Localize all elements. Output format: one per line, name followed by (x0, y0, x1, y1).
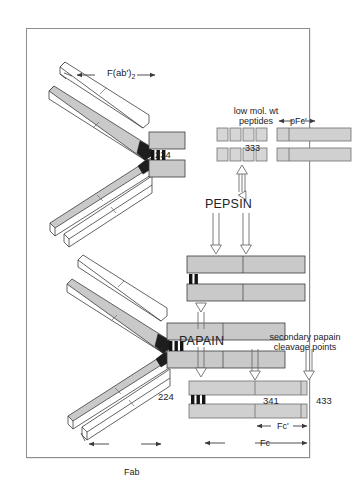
figure-canvas: F(ab')2 234 224 low mol. wt peptides pFc… (27, 29, 309, 457)
measure-fab (81, 433, 161, 444)
label-residue-341: 341 (263, 396, 279, 407)
label-secondary-line1: secondary papain (255, 332, 355, 342)
figure-frame: F(ab')2 234 224 low mol. wt peptides pFc… (26, 28, 310, 458)
label-low-mol-wt-peptides: low mol. wt peptides (219, 106, 293, 126)
label-fc: Fc (260, 438, 270, 448)
label-residue-234: 234 (155, 150, 171, 161)
label-fc-prime: Fc' (277, 421, 289, 431)
label-low-mol-wt-line1: low mol. wt (219, 106, 293, 116)
fc-product-bars (189, 381, 307, 418)
pepsin-product-bars (187, 256, 305, 301)
peptide-row-1 (217, 128, 267, 141)
heavy-chain-upper-right (50, 158, 151, 236)
pfc-bars (277, 128, 351, 161)
label-papain: PAPAIN (179, 334, 224, 348)
heavy-chain-lower-right (68, 351, 169, 429)
label-residue-333: 333 (245, 143, 260, 153)
label-fab2: F(ab')2 (107, 68, 135, 81)
label-pfc-prime: pFc' (290, 116, 307, 126)
running-head-text: IMMUNOGLOBULINS AND THEIR PROTEOLYTIC CL… (44, 0, 296, 1)
label-secondary-cleavage: secondary papain cleavage points (255, 332, 355, 352)
label-secondary-line2: cleavage points (255, 342, 355, 352)
running-head: IMMUNOGLOBULINS AND THEIR PROTEOLYTIC CL… (44, 0, 296, 6)
label-residue-433: 433 (316, 396, 332, 407)
label-pepsin: PEPSIN (205, 197, 252, 211)
label-low-mol-wt-line2: peptides (219, 116, 293, 126)
label-residue-224: 224 (158, 392, 174, 403)
label-fab2-subscript: 2 (132, 73, 136, 80)
label-fab: Fab (124, 467, 140, 477)
